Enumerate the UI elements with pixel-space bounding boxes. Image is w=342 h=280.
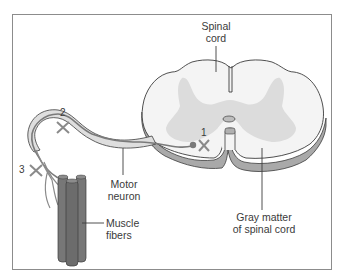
motor-neuron-label-line1: Motor: [111, 178, 138, 190]
spinal-cord-label-line1: Spinal: [201, 20, 230, 32]
x-marker-3: [30, 165, 42, 176]
gray-matter-label-line1: Gray matter: [236, 211, 292, 223]
spinal-cord-label-line2: cord: [206, 32, 227, 44]
motor-neuron-cell-body: [190, 142, 196, 148]
marker-label-1: 1: [201, 127, 207, 138]
marker-label-2: 2: [60, 107, 66, 118]
central-canal: [223, 116, 235, 122]
gray-matter-label-line2: of spinal cord: [233, 223, 296, 235]
muscle-fibers-label-line2: fibers: [106, 229, 132, 241]
spinal-cord-diagram: 1 2 3 Spinal cord Motor neuron Muscle fi…: [0, 0, 342, 280]
muscle-fibers-label-line1: Muscle: [106, 217, 139, 229]
x-marker-2: [57, 122, 69, 133]
fissure-top: [225, 128, 235, 134]
marker-label-3: 3: [19, 164, 25, 175]
motor-neuron-label-line2: neuron: [108, 190, 141, 202]
muscle-fibers: [58, 175, 86, 266]
